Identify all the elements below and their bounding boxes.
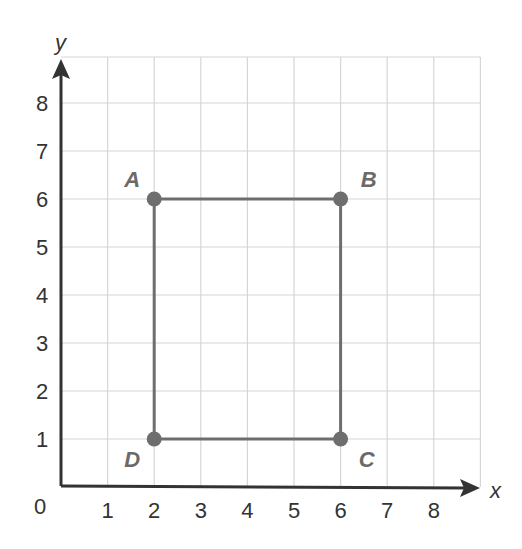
x-tick-label: 2 [148, 498, 160, 523]
y-tick-label: 3 [36, 331, 48, 356]
y-tick-label: 1 [36, 427, 48, 452]
y-tick-label: 6 [36, 187, 48, 212]
y-tick-label: 7 [36, 139, 48, 164]
x-axis [61, 486, 466, 488]
point-b [333, 192, 348, 207]
x-tick-label: 1 [101, 498, 113, 523]
x-tick-label: 7 [381, 498, 393, 523]
point-label-b: B [361, 167, 377, 192]
vertex-points: ABCD [123, 167, 376, 472]
x-tick-label: 6 [334, 498, 346, 523]
axes [52, 59, 480, 497]
point-label-a: A [123, 167, 140, 192]
y-axis-label: y [53, 30, 68, 55]
y-tick-label: 5 [36, 235, 48, 260]
origin-label: 0 [34, 494, 46, 519]
point-a [147, 192, 162, 207]
point-c [333, 432, 348, 447]
point-label-d: D [124, 447, 140, 472]
grid-lines [61, 57, 480, 487]
x-tick-label: 3 [195, 498, 207, 523]
y-tick-label: 8 [36, 91, 48, 116]
coordinate-plane: x y 0 12345678 12345678 ABCD [0, 0, 522, 549]
x-tick-labels: 12345678 [101, 498, 439, 523]
y-tick-label: 4 [36, 283, 48, 308]
point-d [147, 432, 162, 447]
x-tick-label: 8 [428, 498, 440, 523]
x-tick-label: 4 [241, 498, 253, 523]
y-tick-label: 2 [36, 379, 48, 404]
y-tick-labels: 12345678 [36, 91, 48, 452]
x-tick-label: 5 [288, 498, 300, 523]
point-label-c: C [359, 447, 376, 472]
x-axis-label: x [489, 478, 502, 503]
